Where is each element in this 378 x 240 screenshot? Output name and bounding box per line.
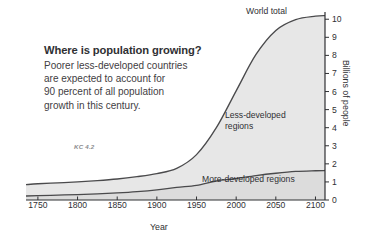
y-axis-title: Billions of people xyxy=(341,60,351,127)
x-tick-label-2050: 2050 xyxy=(266,200,285,210)
y-tick-label-9: 9 xyxy=(332,32,337,42)
y-tick-label-2: 2 xyxy=(332,159,337,169)
figure-number-tag: KC 4.2 xyxy=(74,143,94,150)
callout-heading: Where is population growing? xyxy=(44,44,224,56)
callout-body-line-2: are expected to account for xyxy=(44,72,224,85)
annotation-world-total: World total xyxy=(246,6,287,16)
figure-root: World total Less-developed regions More-… xyxy=(0,0,378,240)
annotation-less-developed-line-2: regions xyxy=(225,121,286,132)
y-tick-label-5: 5 xyxy=(332,105,337,115)
x-tick-label-1800: 1800 xyxy=(68,200,87,210)
y-tick-label-3: 3 xyxy=(332,141,337,151)
annotation-more-developed-regions: More-developed regions xyxy=(202,174,295,184)
y-tick-label-0: 0 xyxy=(332,195,337,205)
callout-body-line-3: 90 percent of all population xyxy=(44,85,224,98)
x-tick-label-1950: 1950 xyxy=(187,200,206,210)
y-tick-label-4: 4 xyxy=(332,123,337,133)
callout-body: Poorer less-developed countries are expe… xyxy=(44,59,224,112)
annotation-less-developed-regions: Less-developed regions xyxy=(225,110,286,132)
x-tick-label-2000: 2000 xyxy=(227,200,246,210)
x-tick-label-1750: 1750 xyxy=(28,200,47,210)
callout-text-block: Where is population growing? Poorer less… xyxy=(44,44,224,112)
x-tick-label-2100: 2100 xyxy=(306,200,325,210)
y-tick-label-8: 8 xyxy=(332,50,337,60)
y-tick-label-10: 10 xyxy=(332,14,342,24)
callout-body-line-4: growth in this century. xyxy=(44,99,224,112)
y-tick-label-1: 1 xyxy=(332,177,337,187)
callout-body-line-1: Poorer less-developed countries xyxy=(44,59,224,72)
y-tick-label-7: 7 xyxy=(332,68,337,78)
y-tick-label-6: 6 xyxy=(332,87,337,97)
annotation-less-developed-line-1: Less-developed xyxy=(225,110,286,121)
x-tick-label-1850: 1850 xyxy=(108,200,127,210)
x-tick-label-1900: 1900 xyxy=(147,200,166,210)
x-axis-title: Year xyxy=(150,222,168,232)
